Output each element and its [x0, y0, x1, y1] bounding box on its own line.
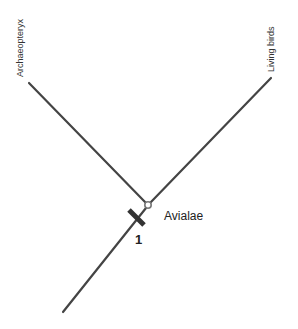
branch-stem	[63, 208, 146, 312]
clade-label-avialae: Avialae	[164, 209, 203, 223]
cladogram-svg: Archaeopteryx Living birds Avialae 1	[0, 0, 298, 329]
taxon-label-living-birds: Living birds	[266, 26, 276, 72]
synapomorphy-number: 1	[135, 232, 142, 247]
branch-archaeopteryx	[29, 83, 146, 203]
taxon-label-archaeopteryx: Archaeopteryx	[15, 18, 25, 77]
node-avialae	[145, 202, 151, 208]
cladogram-canvas: Archaeopteryx Living birds Avialae 1	[0, 0, 298, 329]
branch-living-birds	[150, 78, 271, 203]
